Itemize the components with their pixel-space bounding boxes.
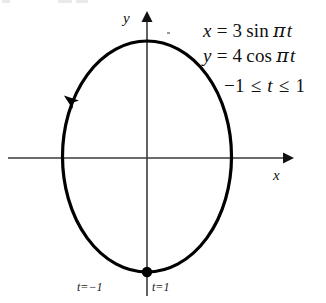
x-axis-label: x xyxy=(273,168,280,183)
equation-y-parameter: t xyxy=(290,45,295,66)
domain-parameter: t xyxy=(267,75,272,96)
domain-relation-left: ≤ xyxy=(251,75,262,96)
domain-upper-bound: 1 xyxy=(295,75,305,96)
equation-line-domain: −1≤t≤1 xyxy=(224,76,305,95)
x-axis xyxy=(8,153,294,164)
equation-x-lhs: x xyxy=(203,20,212,41)
domain-lower-bound: −1 xyxy=(224,75,245,96)
domain-relation-right: ≤ xyxy=(279,75,290,96)
equation-x-equals: = xyxy=(217,20,228,41)
parametric-curve-figure: y x x=3sinπt y=4cosπt −1≤t≤1 t=−1 t=1 xyxy=(0,0,326,303)
equation-x-function: sin xyxy=(246,20,269,41)
y-axis xyxy=(142,11,153,296)
equation-x-coefficient: 3 xyxy=(233,20,243,41)
equation-y-lhs: y xyxy=(203,45,212,66)
t-start-label: t=−1 xyxy=(77,281,103,293)
scan-speck xyxy=(167,32,170,34)
equation-line-x: x=3sinπt xyxy=(203,21,292,40)
t-end-label: t=1 xyxy=(152,281,169,293)
start-end-point-marker xyxy=(142,267,152,277)
equation-x-pi: π xyxy=(273,19,286,41)
equation-y-pi: π xyxy=(276,44,289,66)
equation-x-parameter: t xyxy=(287,20,292,41)
equation-y-equals: = xyxy=(217,45,228,66)
equation-y-function: cos xyxy=(246,45,272,66)
equation-line-y: y=4cosπt xyxy=(203,46,295,65)
equation-y-coefficient: 4 xyxy=(233,45,243,66)
y-axis-label: y xyxy=(123,11,130,26)
